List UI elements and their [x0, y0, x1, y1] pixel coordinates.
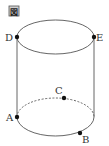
point-d [15, 35, 19, 39]
label-e: E [96, 32, 103, 43]
label-d: D [5, 32, 13, 43]
label-c: C [55, 85, 63, 96]
label-b: B [82, 134, 89, 145]
bottom-base-back [17, 98, 94, 117]
svg-text:図: 図 [10, 8, 18, 17]
label-a: A [5, 112, 14, 123]
top-base [17, 20, 94, 54]
figure-label: 図 [9, 6, 19, 17]
point-a [15, 115, 19, 119]
point-c [62, 96, 66, 100]
cylinder-diagram: 図 D E A B C [0, 0, 109, 146]
